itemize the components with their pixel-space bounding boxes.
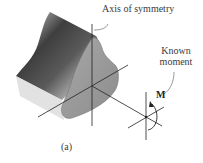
moment-point: [145, 116, 147, 118]
moment-label-leader: [164, 72, 174, 94]
figure-label: (a): [61, 141, 72, 152]
moment-arrowhead-icon: [149, 101, 154, 107]
moment-extension-axis: [146, 117, 162, 126]
known-moment-line2: moment: [157, 56, 195, 67]
axis-label-leader: [94, 24, 108, 30]
beam-diagram: [0, 0, 203, 163]
known-moment-line1: Known: [157, 45, 195, 56]
moment-symbol: M: [156, 89, 165, 100]
known-moment-label: Known moment: [157, 45, 195, 67]
axis-of-symmetry-label: Axis of symmetry: [102, 3, 174, 14]
moment-arrow: [148, 104, 157, 130]
